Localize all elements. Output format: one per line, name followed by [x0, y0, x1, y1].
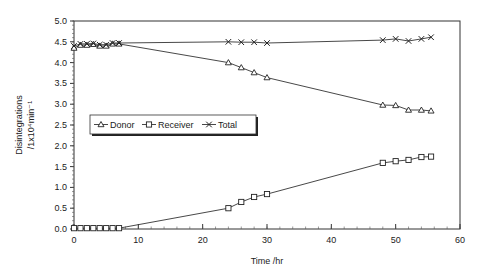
square-marker [406, 157, 411, 162]
square-marker [104, 226, 109, 231]
square-marker [71, 226, 76, 231]
square-marker [264, 191, 269, 196]
square-marker [239, 199, 244, 204]
legend-label: Receiver [158, 120, 194, 130]
series-line [74, 37, 431, 46]
y-tick-label: 0.0 [54, 224, 67, 234]
x-tick-label: 40 [326, 235, 336, 245]
y-axis-title: Disintegrations /1x10⁴min⁻¹ [14, 95, 36, 155]
x-tick-label: 50 [391, 235, 401, 245]
legend-label: Donor [110, 120, 135, 130]
square-marker [419, 154, 424, 159]
y-axis-title-line2: /1x10⁴min⁻¹ [26, 101, 36, 149]
line-chart: 0.00.51.01.52.02.53.03.54.04.55.0 010203… [0, 0, 480, 279]
y-tick-label: 2.0 [54, 141, 67, 151]
series-line [74, 44, 431, 111]
y-tick-label: 3.5 [54, 78, 67, 88]
x-axis: 0102030405060 [71, 224, 465, 245]
x-tick-label: 60 [455, 235, 465, 245]
series-total [71, 34, 434, 48]
x-tick-label: 20 [198, 235, 208, 245]
square-marker [226, 206, 231, 211]
series-line [74, 157, 431, 229]
y-tick-label: 3.0 [54, 99, 67, 109]
square-marker [97, 226, 102, 231]
y-tick-label: 2.5 [54, 120, 67, 130]
square-marker [84, 226, 89, 231]
y-tick-label: 4.0 [54, 58, 67, 68]
y-tick-label: 1.5 [54, 162, 67, 172]
square-marker [78, 226, 83, 231]
x-tick-label: 10 [133, 235, 143, 245]
square-marker [428, 154, 433, 159]
series-donor [71, 41, 434, 113]
square-marker [91, 226, 96, 231]
square-marker [110, 226, 115, 231]
y-axis-title-line1: Disintegrations [14, 95, 24, 155]
square-marker [146, 122, 151, 127]
square-marker [380, 160, 385, 165]
x-axis-title: Time /hr [251, 256, 284, 266]
y-tick-label: 1.0 [54, 182, 67, 192]
x-tick-label: 30 [262, 235, 272, 245]
legend: DonorReceiverTotal [90, 115, 258, 136]
series-receiver [71, 154, 433, 231]
x-tick-label: 0 [71, 235, 76, 245]
y-tick-label: 0.5 [54, 203, 67, 213]
square-marker [393, 159, 398, 164]
square-marker [116, 226, 121, 231]
legend-label: Total [218, 120, 237, 130]
y-axis: 0.00.51.01.52.02.53.03.54.04.55.0 [54, 16, 74, 234]
y-tick-label: 4.5 [54, 37, 67, 47]
square-marker [252, 194, 257, 199]
y-tick-label: 5.0 [54, 16, 67, 26]
